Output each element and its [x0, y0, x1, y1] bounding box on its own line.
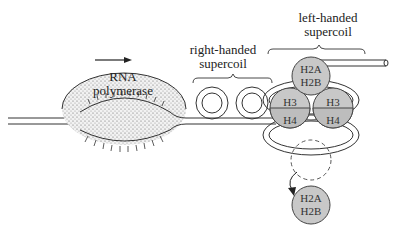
histone-displaced-line2: H2B — [294, 205, 328, 218]
histone-top-line2: H2B — [294, 76, 328, 89]
histone-top-label: H2A H2B — [294, 63, 328, 88]
histone-h4-left-label: H4 — [276, 114, 304, 127]
histone-top-line1: H2A — [294, 63, 328, 76]
right-supercoil-label-line1: right-handed — [168, 43, 278, 57]
left-handed-supercoil-label: left-handed supercoil — [278, 11, 378, 38]
displaced-histone-outline — [291, 140, 331, 180]
histone-displaced-line1: H2A — [294, 192, 328, 205]
left-supercoil-brace — [268, 45, 365, 54]
rna-polymerase-label: RNA polymerase — [88, 70, 158, 97]
left-supercoil-label-line2: supercoil — [278, 25, 378, 39]
right-handed-supercoil — [196, 87, 268, 119]
histone-h3-right-label: H3 — [319, 96, 347, 109]
rna-polymerase-label-line1: RNA — [88, 70, 158, 84]
histone-h4-right-label: H4 — [319, 114, 347, 127]
rna-polymerase-label-line2: polymerase — [88, 84, 158, 98]
histone-displaced-label: H2A H2B — [294, 192, 328, 217]
right-supercoil-brace — [193, 74, 272, 83]
left-supercoil-label-line1: left-handed — [278, 11, 378, 25]
right-handed-supercoil-label: right-handed supercoil — [168, 43, 278, 70]
histone-h3-left-label: H3 — [276, 96, 304, 109]
transcription-direction-arrow — [95, 57, 132, 63]
right-supercoil-label-line2: supercoil — [168, 57, 278, 71]
